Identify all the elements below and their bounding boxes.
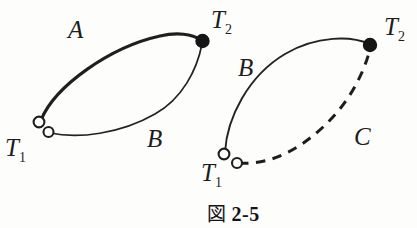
curve-c-path xyxy=(239,48,370,163)
label-curve-b-right: B xyxy=(238,55,253,80)
label-curve-c-text: C xyxy=(354,123,371,150)
label-curve-b-right-text: B xyxy=(238,54,253,81)
state-marker-t1-right-lower xyxy=(232,158,242,168)
label-t2-right-symbol: T xyxy=(384,13,398,40)
label-t1-left-subscript: 1 xyxy=(19,150,26,165)
state-marker-t2-right xyxy=(363,38,377,52)
label-curve-b-left: B xyxy=(147,126,162,151)
label-curve-c: C xyxy=(354,124,371,149)
label-t1-left: T1 xyxy=(5,135,26,160)
label-t2-right: T2 xyxy=(384,14,405,39)
label-t2-left: T2 xyxy=(211,7,232,32)
label-t2-left-subscript: 2 xyxy=(225,22,232,37)
state-marker-t2-left xyxy=(195,34,209,48)
label-t2-right-subscript: 2 xyxy=(398,29,405,44)
label-curve-a: A xyxy=(68,17,83,42)
label-t1-right-symbol: T xyxy=(201,159,215,186)
label-curve-b-left-text: B xyxy=(147,125,162,152)
curve-a-path xyxy=(41,34,201,120)
label-t2-left-symbol: T xyxy=(211,6,225,33)
figure-caption: 図2-5 xyxy=(207,199,260,226)
figure-caption-kanji: 図 xyxy=(207,203,227,225)
label-curve-a-text: A xyxy=(68,16,83,43)
figure-container: A B T1 T2 B C T1 T2 図2-5 xyxy=(0,0,417,228)
label-t1-right-subscript: 1 xyxy=(215,175,222,190)
figure-drawing xyxy=(0,0,417,228)
figure-caption-number: 2-5 xyxy=(232,203,260,225)
curve-b-path-left xyxy=(50,44,202,135)
state-marker-t1-right-upper xyxy=(219,149,230,160)
state-marker-t1-left-lower xyxy=(44,127,54,137)
state-marker-t1-left-upper xyxy=(34,117,45,128)
left-cycle-diagram xyxy=(34,34,210,137)
label-t1-left-symbol: T xyxy=(5,134,19,161)
label-t1-right: T1 xyxy=(201,160,222,185)
